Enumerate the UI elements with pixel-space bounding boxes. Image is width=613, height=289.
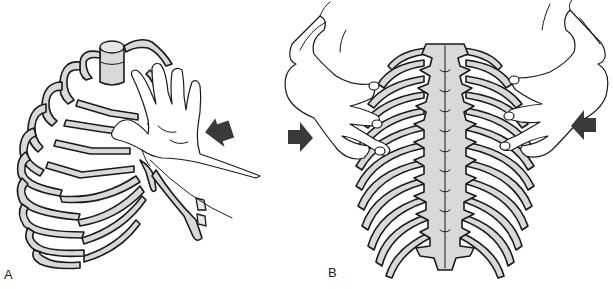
panel-label-b: B [328, 266, 337, 279]
compression-arrow-icon [202, 115, 236, 152]
panel-label-a: A [4, 268, 13, 281]
vertebra-top [100, 41, 124, 85]
rib-cage-anterior-illustration [0, 0, 300, 289]
panel-b: B [280, 0, 613, 289]
compression-arrow-right-icon [288, 122, 313, 152]
panel-a: A [0, 0, 300, 289]
rib-cage-posterior-illustration [280, 0, 613, 289]
